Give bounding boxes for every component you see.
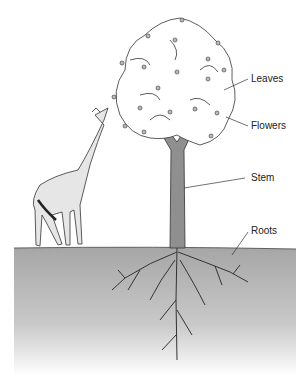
plant-parts-diagram: Leaves Flowers Stem Roots	[0, 0, 303, 376]
label-leaves: Leaves	[251, 73, 283, 84]
tree-canopy	[116, 18, 235, 145]
soil	[14, 247, 296, 376]
label-roots: Roots	[251, 225, 277, 236]
stem-leader-line	[184, 178, 245, 188]
tree-trunk	[158, 125, 194, 248]
illustration	[0, 0, 303, 376]
label-flowers: Flowers	[251, 120, 286, 131]
flowers-leader-line	[226, 117, 248, 126]
giraffe	[33, 108, 108, 246]
label-stem: Stem	[251, 172, 274, 183]
